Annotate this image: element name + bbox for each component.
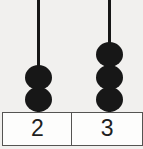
bead-right-2[interactable]: [96, 65, 123, 90]
bead-right-1[interactable]: [96, 87, 123, 112]
bead-right-3[interactable]: [96, 42, 123, 67]
bead-left-2[interactable]: [25, 65, 52, 90]
abacus-diagram: 2 3: [0, 0, 143, 149]
bead-left-1[interactable]: [25, 87, 52, 112]
label-box-left[interactable]: 2: [2, 112, 73, 146]
label-box-right[interactable]: 3: [71, 112, 143, 146]
label-row: 2 3: [2, 112, 143, 146]
label-value-right: 3: [101, 117, 114, 140]
label-value-left: 2: [31, 117, 44, 140]
